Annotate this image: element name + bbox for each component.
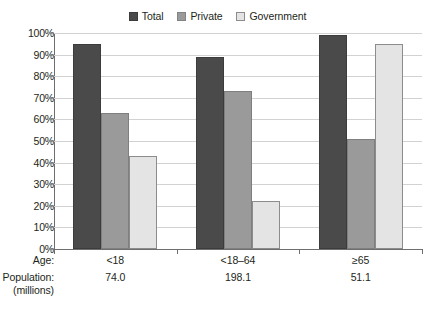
chart-legend: Total Private Government [0, 11, 435, 22]
population-value: 74.0 [54, 271, 177, 284]
age-row-header: Age: [0, 254, 54, 267]
y-axis-tick-label: 100% [8, 28, 54, 39]
y-axis-tick-label: 90% [8, 49, 54, 60]
plot-area [54, 33, 422, 249]
y-axis-tick-label: 20% [8, 201, 54, 212]
bar-total-3[interactable] [319, 35, 347, 249]
bar-private-3[interactable] [347, 139, 375, 249]
legend-label-total: Total [142, 11, 164, 22]
gridline-0 [54, 249, 422, 250]
bar-group [299, 33, 422, 249]
population-row-header-line2: (millions) [0, 284, 54, 297]
bar-government-2[interactable] [252, 201, 280, 249]
legend-entry-government[interactable]: Government [236, 11, 306, 22]
legend-swatch-private-icon [177, 12, 186, 21]
category-label-table: Age: <18<18–64≥65 Population: (millions)… [0, 254, 435, 301]
age-row: Age: <18<18–64≥65 [0, 254, 435, 271]
legend-label-government: Government [249, 11, 306, 22]
legend-entry-private[interactable]: Private [177, 11, 222, 22]
population-value: 51.1 [299, 271, 422, 284]
bar-private-2[interactable] [224, 91, 252, 249]
population-value: 198.1 [177, 271, 300, 284]
y-axis-tick-label: 0% [8, 244, 54, 255]
population-row: Population: (millions) 74.0198.151.1 [0, 271, 435, 301]
y-axis-tick-label: 10% [8, 222, 54, 233]
bar-private-1[interactable] [101, 113, 129, 249]
y-axis-tick-label: 70% [8, 93, 54, 104]
legend-entry-total[interactable]: Total [129, 11, 164, 22]
bar-group [177, 33, 300, 249]
bar-total-1[interactable] [73, 44, 101, 249]
legend-swatch-government-icon [236, 12, 245, 21]
age-category-label: ≥65 [299, 254, 422, 267]
y-axis-tick-label: 50% [8, 136, 54, 147]
legend-swatch-total-icon [129, 12, 138, 21]
y-axis-tick-label: 80% [8, 71, 54, 82]
age-category-label: <18–64 [177, 254, 300, 267]
age-category-label: <18 [54, 254, 177, 267]
bar-total-2[interactable] [196, 57, 224, 249]
y-axis-tick-label: 40% [8, 157, 54, 168]
bar-chart-figure: Total Private Government 100%90%80%70%60… [0, 0, 435, 320]
legend-label-private: Private [190, 11, 222, 22]
y-axis-tick-label: 60% [8, 114, 54, 125]
population-row-header: Population: (millions) [0, 271, 54, 296]
population-row-header-line1: Population: [0, 271, 54, 284]
bar-group [54, 33, 177, 249]
bar-government-3[interactable] [375, 44, 403, 249]
y-axis-tick-label: 30% [8, 179, 54, 190]
bar-government-1[interactable] [129, 156, 157, 249]
